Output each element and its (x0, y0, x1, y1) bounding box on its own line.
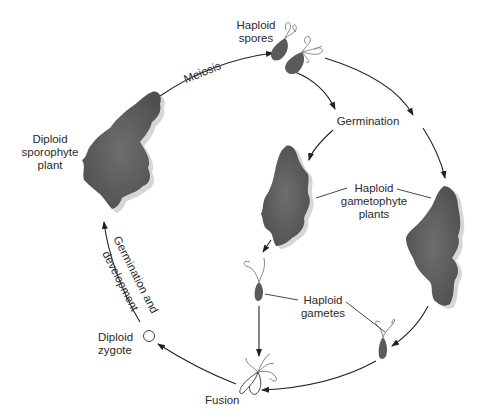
right-gametophyte-to-gamete-arrow (392, 306, 428, 346)
label-germination: Germination (330, 115, 406, 128)
diploid-sporophyte-plant (82, 92, 165, 213)
right-to-right-gametophyte-arrow (423, 128, 445, 178)
diploid-zygote (144, 331, 155, 342)
label-haploid-gametophyte-plants: Haploid gametophyte plants (338, 182, 410, 221)
gametes-leader-left (265, 294, 298, 300)
spores-to-right-arrow (325, 58, 413, 115)
spores-to-germination-arrow (295, 72, 335, 109)
right-gamete-to-fusion-arrow (262, 361, 376, 390)
left-gametophyte-to-gamete-arrow (263, 240, 271, 252)
label-haploid-spores: Haploid spores (226, 19, 286, 45)
haploid-gametophyte-left (261, 146, 314, 249)
label-diploid-zygote: Diploid zygote (98, 331, 142, 357)
label-diploid-sporophyte-plant: Diploid sporophyte plant (18, 133, 82, 172)
label-haploid-gametes: Haploid gametes (298, 294, 348, 320)
label-fusion: Fusion (205, 394, 245, 407)
fusion-gametes (240, 354, 277, 394)
fusion-to-zygote-arrow (158, 344, 236, 384)
life-cycle-diagram: Haploid spores Meiosis Diploid sporophyt… (0, 0, 486, 420)
haploid-gametophyte-right (406, 186, 464, 309)
haploid-gamete-right (375, 319, 394, 359)
haploid-gamete-left (244, 258, 265, 301)
germination-to-left-gametophyte-arrow (309, 130, 333, 160)
